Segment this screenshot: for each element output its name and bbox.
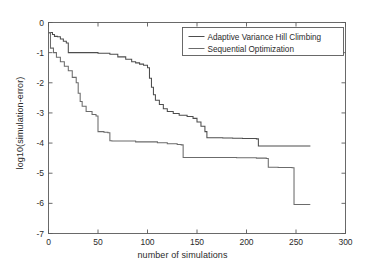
y-tick-label: -2 [36,78,44,88]
y-tick-label: -5 [36,168,44,178]
x-tick-label: 200 [239,237,253,247]
x-tick-label: 250 [289,237,303,247]
legend-label-0: Adaptive Variance Hill Climbing [208,33,322,42]
x-tick-label: 150 [190,237,204,247]
y-axis-label: log10(simulation-error) [15,53,25,193]
x-tick-label: 50 [93,237,103,247]
series-line-1 [49,33,310,205]
x-tick-label: 0 [46,237,51,247]
y-tick-label: -1 [36,48,44,58]
y-tick-label: -6 [36,198,44,208]
chart-figure: 0501001502002503000-1-2-3-4-5-6-7Adaptiv… [0,0,365,275]
x-tick-label: 100 [140,237,154,247]
plot-canvas: 0501001502002503000-1-2-3-4-5-6-7Adaptiv… [0,0,365,275]
x-tick-label: 300 [338,237,352,247]
y-tick-label: -7 [36,229,44,239]
legend-label-1: Sequential Optimization [208,45,295,54]
y-tick-label: 0 [39,18,44,28]
x-axis-label: number of simulations [0,250,365,260]
y-tick-label: -3 [36,108,44,118]
y-tick-label: -4 [36,138,44,148]
